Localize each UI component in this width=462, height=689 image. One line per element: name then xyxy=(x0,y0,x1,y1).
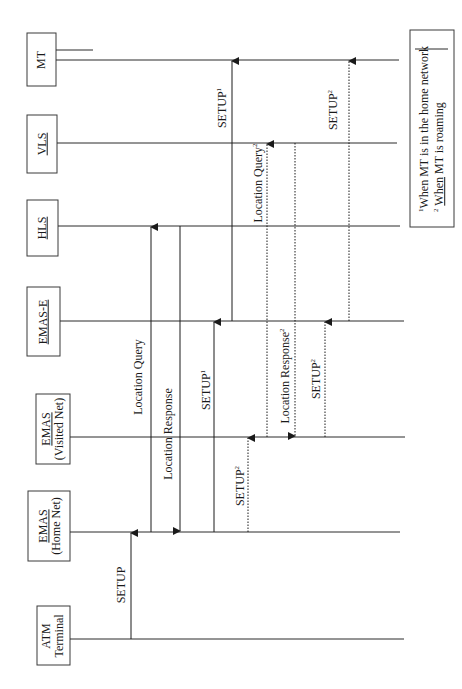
actor-name: ATM xyxy=(40,614,53,657)
actor-name: EMAS xyxy=(40,398,53,460)
actor-subtitle: (Visited Net) xyxy=(53,398,66,460)
actor-name: HLS xyxy=(35,217,49,240)
actor-label-atm-terminal: ATM Terminal xyxy=(40,614,65,657)
actor-label-emas-visited: EMAS (Visited Net) xyxy=(40,398,65,460)
label-setup2-home: SETUP2 xyxy=(234,466,246,506)
label-setup2-emas-e: SETUP2 xyxy=(327,90,339,130)
legend-notes: 1When MT is in the home network 2 When M… xyxy=(417,46,447,212)
label-location-query: Location Query xyxy=(132,339,144,415)
diagram-canvas xyxy=(0,0,462,689)
actor-label-emas-home: EMAS (Home Net) xyxy=(37,497,62,555)
actor-subtitle: (Home Net) xyxy=(50,497,63,555)
label-location-response2: Location Response2 xyxy=(279,328,291,423)
label-setup1-home: SETUP1 xyxy=(200,370,212,410)
label-location-response: Location Response xyxy=(162,388,174,480)
actor-subtitle: Terminal xyxy=(53,614,66,657)
actor-name: VLS xyxy=(35,133,49,156)
label-location-query2: Location Query2 xyxy=(252,143,264,222)
actor-label-hls: HLS xyxy=(36,217,49,240)
actor-label-mt: MT xyxy=(35,51,48,69)
actor-label-vls: VLS xyxy=(36,133,49,156)
sequence-diagram: MT VLS HLS EMAS-E EMAS (Visited Net) EMA… xyxy=(0,0,462,689)
actor-name: MT xyxy=(34,51,48,69)
label-setup-atm: SETUP xyxy=(115,567,127,604)
actor-name: EMAS-E xyxy=(36,300,50,345)
actor-name: EMAS xyxy=(37,497,50,555)
label-setup1-emas-e: SETUP1 xyxy=(216,88,228,128)
actor-label-emas-e: EMAS-E xyxy=(37,300,50,345)
legend-note-2: 2 When MT is roaming xyxy=(432,46,447,212)
legend-note-1: 1When MT is in the home network xyxy=(417,46,432,212)
label-setup2-visited: SETUP2 xyxy=(310,359,322,399)
